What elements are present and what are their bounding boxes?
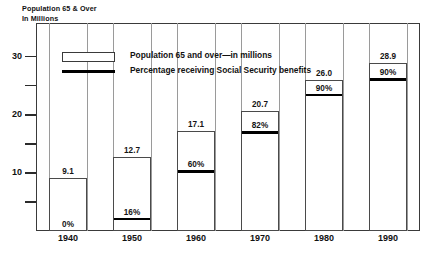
white-box-swatch-icon xyxy=(62,52,115,62)
percent-line-1950 xyxy=(114,218,150,221)
x-tick-label-1990: 1990 xyxy=(356,233,420,243)
percent-line-1960 xyxy=(178,170,214,173)
percent-line-1970 xyxy=(242,131,278,134)
y-tick-mark xyxy=(25,201,36,203)
legend-label-percentage: Percentage receiving Social Security ben… xyxy=(130,65,311,75)
percent-label-1980: 90% xyxy=(305,84,343,93)
y-tick-label: 10 xyxy=(12,167,22,177)
y-axis: 102030 xyxy=(0,0,36,256)
bar-1960[interactable] xyxy=(177,131,215,231)
y-tick-label: 30 xyxy=(12,51,22,61)
legend-item-percentage: Percentage receiving Social Security ben… xyxy=(62,64,322,79)
x-tick-label-1940: 1940 xyxy=(36,233,100,243)
black-line-swatch-icon xyxy=(62,70,115,73)
bar-value-label-1940: 9.1 xyxy=(49,167,87,176)
bar-group-1990[interactable]: 28.990% xyxy=(369,23,407,231)
percent-label-1950: 16% xyxy=(113,208,151,217)
x-tick-label-1970: 1970 xyxy=(228,233,292,243)
x-tick-label-1950: 1950 xyxy=(100,233,164,243)
y-tick-mark xyxy=(25,143,36,145)
y-tick-label: 20 xyxy=(12,109,22,119)
bar-value-label-1970: 20.7 xyxy=(241,100,279,109)
y-tick-mark xyxy=(25,172,36,174)
bar-value-label-1960: 17.1 xyxy=(177,120,215,129)
bar-value-label-1950: 12.7 xyxy=(113,146,151,155)
x-tick-label-1980: 1980 xyxy=(292,233,356,243)
bar-1990[interactable] xyxy=(369,63,407,231)
percent-label-1940: 0% xyxy=(49,220,87,229)
legend-item-population: Population 65 and over—in millions xyxy=(62,49,322,64)
chart-legend: Population 65 and over—in millions Perce… xyxy=(62,49,322,79)
percent-line-1980 xyxy=(306,94,342,97)
category-separator xyxy=(407,23,408,231)
percent-label-1990: 90% xyxy=(369,68,407,77)
percent-label-1960: 60% xyxy=(177,160,215,169)
bar-1980[interactable] xyxy=(305,80,343,231)
bar-value-label-1990: 28.9 xyxy=(369,52,407,61)
category-separator xyxy=(343,23,344,231)
y-tick-mark xyxy=(25,85,36,87)
x-tick-label-1960: 1960 xyxy=(164,233,228,243)
legend-label-population: Population 65 and over—in millions xyxy=(130,50,272,60)
y-tick-mark xyxy=(25,114,36,116)
percent-line-1990 xyxy=(370,78,406,81)
y-tick-mark xyxy=(25,56,36,58)
percent-label-1970: 82% xyxy=(241,121,279,130)
x-axis: 194019501960197019801990 xyxy=(36,233,420,253)
